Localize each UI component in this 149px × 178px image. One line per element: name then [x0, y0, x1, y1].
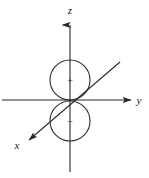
orbital-diagram-figure: + − z y x [0, 0, 149, 178]
orbital-diagram-canvas: + − z y x [0, 0, 149, 178]
z-axis-label: z [67, 4, 73, 16]
x-axis-label: x [14, 139, 20, 151]
y-axis-label: y [136, 94, 142, 106]
upper-lobe-sign: + [67, 75, 73, 86]
lower-lobe-sign: − [67, 116, 73, 127]
